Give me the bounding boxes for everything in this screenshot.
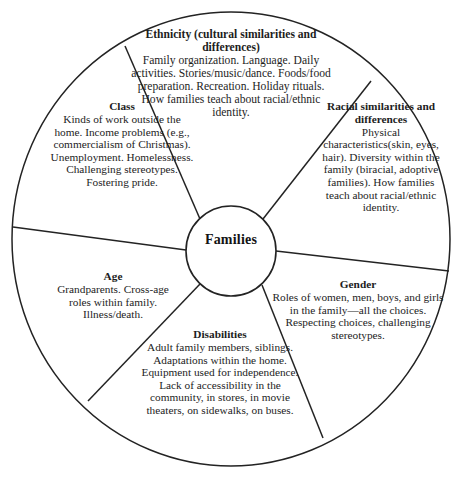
- hub-circle: [186, 206, 276, 296]
- segment-age-body: Grandparents. Cross-age roles within fam…: [46, 283, 180, 321]
- segment-gender-heading: Gender: [268, 278, 448, 291]
- segment-class-body: Kinds of work outside the home. Income p…: [48, 113, 196, 189]
- segment-racial: Racial similarities and differences Phys…: [318, 100, 444, 214]
- wheel-diagram: Ethnicity (cultural similarities and dif…: [0, 0, 459, 480]
- segment-gender: Gender Roles of women, men, boys, and gi…: [268, 278, 448, 341]
- segment-ethnicity-heading: Ethnicity (cultural similarities and dif…: [129, 29, 333, 55]
- divider-age-class: [13, 227, 186, 250]
- segment-racial-body: Physical characteristics(skin, eyes, hai…: [318, 126, 444, 214]
- segment-class-heading: Class: [48, 100, 196, 113]
- segment-class: Class Kinds of work outside the home. In…: [48, 100, 196, 189]
- segment-age-heading: Age: [46, 270, 180, 283]
- hub-label: Families: [175, 232, 287, 248]
- segment-gender-body: Roles of women, men, boys, and girls in …: [268, 291, 448, 341]
- segment-racial-heading: Racial similarities and differences: [318, 100, 444, 125]
- segment-disabilities-body: Adult family members, siblings. Adaptati…: [139, 341, 301, 417]
- divider-racial-gender: [276, 251, 449, 271]
- segment-age: Age Grandparents. Cross-age roles within…: [46, 270, 180, 321]
